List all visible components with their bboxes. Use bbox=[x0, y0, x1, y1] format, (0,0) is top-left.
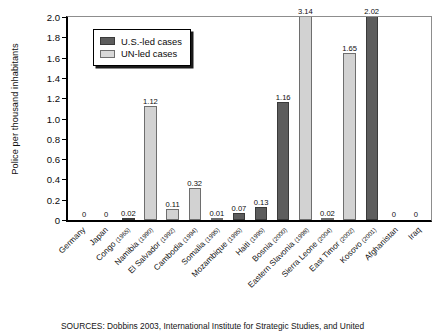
legend-label-us-led: U.S.-led cases bbox=[121, 36, 182, 47]
bar-slot: 0.02 bbox=[316, 17, 338, 220]
x-axis-label-year: (1998) bbox=[293, 226, 311, 244]
bar-slot: 1.16 bbox=[272, 17, 294, 220]
x-axis-labels: GermanyJapanCongo (1965)Namibia (1990)El… bbox=[66, 224, 432, 304]
x-axis-label-year: (2004) bbox=[315, 226, 333, 244]
y-axis-tick-label: 0.6 bbox=[47, 154, 60, 165]
y-axis-tick-label: 0 bbox=[55, 215, 60, 226]
x-axis-label-year: (1995) bbox=[248, 226, 266, 244]
y-axis-title: Police per thousand inhabitants bbox=[10, 9, 20, 209]
legend-label-un-led: UN-led cases bbox=[121, 48, 177, 59]
bar-value-label: 0.07 bbox=[232, 204, 247, 213]
y-axis-tick-label: 1.2 bbox=[47, 93, 60, 104]
bar-slot: 3.14 bbox=[294, 17, 316, 220]
bar-namibia[interactable]: 1.12 bbox=[144, 106, 156, 220]
bar-value-label: 0.32 bbox=[187, 179, 202, 188]
legend-swatch-us-led bbox=[100, 37, 115, 45]
bar-slot: 0.07 bbox=[228, 17, 250, 220]
bar-somalia[interactable]: 0.01 bbox=[211, 218, 223, 220]
bar-slot: 0.01 bbox=[206, 17, 228, 220]
y-axis-tick-label: 1.0 bbox=[47, 113, 60, 124]
y-axis-tick-label: 1.4 bbox=[47, 72, 60, 83]
x-axis-tick-label: Germany bbox=[58, 226, 88, 256]
bar-slot: 2.02 bbox=[361, 17, 383, 220]
x-axis-label-year: (1994) bbox=[181, 226, 199, 244]
x-axis-label-year: (1992) bbox=[159, 226, 177, 244]
chart-figure: Police per thousand inhabitants 2.01.81.… bbox=[0, 0, 444, 331]
x-axis-label-year: (1995) bbox=[226, 226, 244, 244]
bar-mozambique[interactable]: 0.07 bbox=[233, 213, 245, 220]
x-label-slot: Japan bbox=[93, 224, 115, 304]
bar-value-label: 3.14 bbox=[298, 7, 313, 16]
y-axis-tick-label: 1.6 bbox=[47, 52, 60, 63]
x-label-slot: Iraq bbox=[406, 224, 428, 304]
bar-value-label: 0.02 bbox=[121, 209, 136, 218]
y-axis-tick-label: 2.0 bbox=[47, 12, 60, 23]
x-label-slot: Kosovo (2001) bbox=[361, 224, 383, 304]
y-axis-tick bbox=[62, 220, 68, 221]
bar-value-label: 2.02 bbox=[364, 7, 379, 16]
x-axis-label-year: (2000) bbox=[270, 226, 288, 244]
bar-el-salvador[interactable]: 0.11 bbox=[166, 209, 178, 220]
bar-eastern-slavonia[interactable]: 3.14 bbox=[299, 17, 311, 220]
y-axis-tick-label: 1.8 bbox=[47, 32, 60, 43]
bar-congo[interactable]: 0.02 bbox=[122, 218, 134, 220]
x-axis-label-year: (1965) bbox=[114, 226, 132, 244]
bar-cambodia[interactable]: 0.32 bbox=[189, 188, 201, 220]
bar-value-label: 0 bbox=[414, 210, 418, 219]
x-label-slot: Mozambique (1995) bbox=[227, 224, 249, 304]
bar-bosnia[interactable]: 1.16 bbox=[277, 102, 289, 220]
bar-value-label: 0 bbox=[82, 210, 86, 219]
chart-legend: U.S.-led cases UN-led cases bbox=[93, 29, 191, 66]
y-axis-tick-label: 0.8 bbox=[47, 133, 60, 144]
plot-area: 2.01.81.61.41.21.00.80.60.40.20 000.021.… bbox=[66, 16, 432, 222]
x-label-slot: East Timor (2002) bbox=[339, 224, 361, 304]
bar-value-label: 1.16 bbox=[276, 93, 291, 102]
legend-swatch-un-led bbox=[100, 50, 115, 58]
x-label-slot: Afghanistan bbox=[383, 224, 405, 304]
bar-slot: 0 bbox=[73, 17, 95, 220]
bar-value-label: 0.02 bbox=[320, 209, 335, 218]
bar-slot: 0.13 bbox=[250, 17, 272, 220]
bar-haiti[interactable]: 0.13 bbox=[255, 207, 267, 220]
legend-item-us-led: U.S.-led cases bbox=[100, 36, 182, 47]
x-axis-tick-label: Iraq bbox=[407, 226, 423, 242]
bar-slot: 0 bbox=[383, 17, 405, 220]
bar-kosovo[interactable]: 2.02 bbox=[366, 17, 378, 220]
x-label-slot: Germany bbox=[71, 224, 93, 304]
bar-value-label: 0 bbox=[392, 210, 396, 219]
bar-value-label: 1.12 bbox=[143, 97, 158, 106]
bar-slot: 1.65 bbox=[339, 17, 361, 220]
bar-value-label: 1.65 bbox=[342, 44, 357, 53]
x-axis-label-year: (2002) bbox=[337, 226, 355, 244]
legend-item-un-led: UN-led cases bbox=[100, 48, 182, 59]
x-axis-label-year: (1990) bbox=[136, 226, 154, 244]
bar-value-label: 0 bbox=[104, 210, 108, 219]
y-axis-tick-label: 0.4 bbox=[47, 174, 60, 185]
bar-slot: 0 bbox=[405, 17, 427, 220]
x-axis-label-year: (2001) bbox=[360, 226, 378, 244]
y-axis-tick-label: 0.2 bbox=[47, 194, 60, 205]
bar-value-label: 0.13 bbox=[254, 198, 269, 207]
bar-value-label: 0.01 bbox=[209, 209, 224, 218]
source-note: SOURCES: Dobbins 2003, International Ins… bbox=[61, 321, 444, 331]
bar-east-timor[interactable]: 1.65 bbox=[343, 53, 355, 220]
bar-sierra-leone[interactable]: 0.02 bbox=[321, 218, 333, 220]
x-axis-label-year: (1995) bbox=[203, 226, 221, 244]
bar-value-label: 0.11 bbox=[165, 200, 179, 209]
